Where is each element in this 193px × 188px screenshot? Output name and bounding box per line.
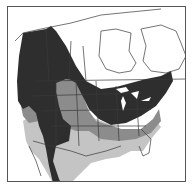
range-map: [8, 7, 186, 182]
map-frame: [7, 6, 186, 182]
